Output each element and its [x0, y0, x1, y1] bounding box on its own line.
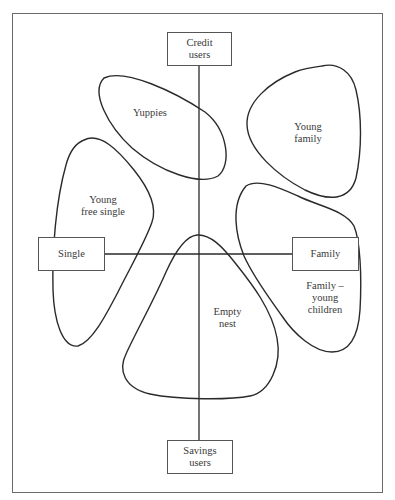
segment-label-young-free-single: Young free single: [68, 194, 138, 218]
credit-users-box: Credit users: [167, 32, 232, 66]
segment-label-empty-nest: Empty nest: [200, 306, 255, 330]
single-box: Single: [38, 237, 105, 271]
savings-users-box: Savings users: [167, 440, 233, 474]
segment-label-family-young-children: Family – young children: [290, 280, 360, 316]
segment-shape-yuppies: [99, 76, 226, 180]
segment-label-young-family: Young family: [278, 121, 338, 145]
segment-label-yuppies: Yuppies: [120, 107, 180, 119]
family-box: Family: [292, 237, 359, 271]
